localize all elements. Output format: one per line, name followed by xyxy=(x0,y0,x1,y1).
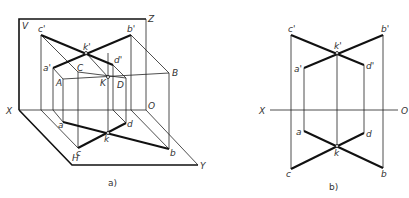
label-c: c xyxy=(76,148,81,158)
label-k-prime: k' xyxy=(83,42,91,52)
label-b-b: b xyxy=(381,169,387,179)
front-cd xyxy=(41,35,113,65)
top-cd-b xyxy=(291,133,364,169)
label-c-prime: c' xyxy=(38,24,45,34)
label-A: A xyxy=(55,78,62,88)
label-d-prime-b: d' xyxy=(366,61,374,71)
label-O-b: O xyxy=(401,106,408,116)
label-a: a xyxy=(58,120,64,130)
label-c-b: c xyxy=(286,169,291,179)
label-O: O xyxy=(148,101,155,111)
label-k-b: k xyxy=(334,148,340,158)
label-d-prime: d' xyxy=(114,55,122,65)
label-V: V xyxy=(22,21,29,31)
label-K: K xyxy=(100,78,107,88)
label-Y: Y xyxy=(200,161,207,171)
line-AB xyxy=(63,73,169,79)
top-ab xyxy=(63,122,169,149)
label-b: b xyxy=(170,148,176,158)
label-X-b: X xyxy=(258,106,266,116)
conn-b xyxy=(131,35,169,73)
figure-b: X O c' b' k' a' d' a d k c b b) xyxy=(258,24,408,192)
h-projector-d xyxy=(113,110,126,123)
front-cd-b xyxy=(291,35,364,65)
point-K xyxy=(107,76,110,79)
label-b-prime: b' xyxy=(127,24,135,34)
label-a-prime-b: a' xyxy=(294,64,302,74)
label-b-prime-b: b' xyxy=(381,24,389,34)
caption-a: a) xyxy=(108,178,117,188)
label-B: B xyxy=(172,68,178,78)
label-D: D xyxy=(117,80,124,90)
caption-b: b) xyxy=(329,182,338,192)
label-k-prime-b: k' xyxy=(334,41,342,51)
label-k: k xyxy=(104,134,110,144)
label-X: X xyxy=(5,106,13,116)
label-a-b: a xyxy=(296,127,302,137)
projection-diagram: V Z X O Y H c' b' k' a' d' A C K D B a d… xyxy=(0,0,409,198)
figure-a: V Z X O Y H c' b' k' a' d' A C K D B a d… xyxy=(5,14,207,188)
label-d: d xyxy=(127,119,133,129)
label-c-prime-b: c' xyxy=(288,24,295,34)
point-k-prime-b xyxy=(336,52,339,55)
label-a-prime: a' xyxy=(43,63,51,73)
label-d-b: d xyxy=(366,129,372,139)
label-Z: Z xyxy=(147,14,155,24)
label-C: C xyxy=(77,63,84,73)
